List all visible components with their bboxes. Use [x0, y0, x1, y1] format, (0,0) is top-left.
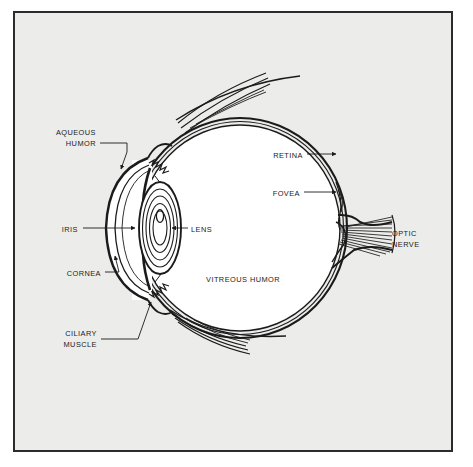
- label-iris-line-0: IRIS: [28, 224, 78, 235]
- label-vitreous-humor: VITREOUS HUMOR: [206, 274, 296, 285]
- label-retina-line-0: RETINA: [253, 150, 303, 161]
- label-cornea: CORNEA: [41, 268, 101, 279]
- label-cornea-line-0: CORNEA: [41, 268, 101, 279]
- label-fovea-line-0: FOVEA: [250, 188, 300, 199]
- label-vitreous-humor-line-0: VITREOUS HUMOR: [206, 274, 296, 285]
- label-optic-nerve: OPTIC NERVE: [392, 228, 442, 250]
- label-aqueous-humor-line-1: HUMOR: [26, 138, 96, 149]
- label-aqueous-humor-line-0: AQUEOUS: [26, 127, 96, 138]
- label-ciliary-muscle-line-1: MUSCLE: [37, 339, 97, 350]
- label-optic-nerve-line-1: NERVE: [392, 239, 442, 250]
- label-aqueous-humor: AQUEOUS HUMOR: [26, 127, 96, 149]
- label-retina: RETINA: [253, 150, 303, 161]
- label-ciliary-muscle: CILIARY MUSCLE: [37, 328, 97, 350]
- label-lens: LENS: [191, 224, 241, 235]
- label-lens-line-0: LENS: [191, 224, 241, 235]
- label-optic-nerve-line-0: OPTIC: [392, 228, 442, 239]
- label-fovea: FOVEA: [250, 188, 300, 199]
- label-ciliary-muscle-line-0: CILIARY: [37, 328, 97, 339]
- label-iris: IRIS: [28, 224, 78, 235]
- eye-anatomy-figure: AQUEOUS HUMOR IRIS CORNEA CILIARY MUSCLE…: [0, 0, 473, 467]
